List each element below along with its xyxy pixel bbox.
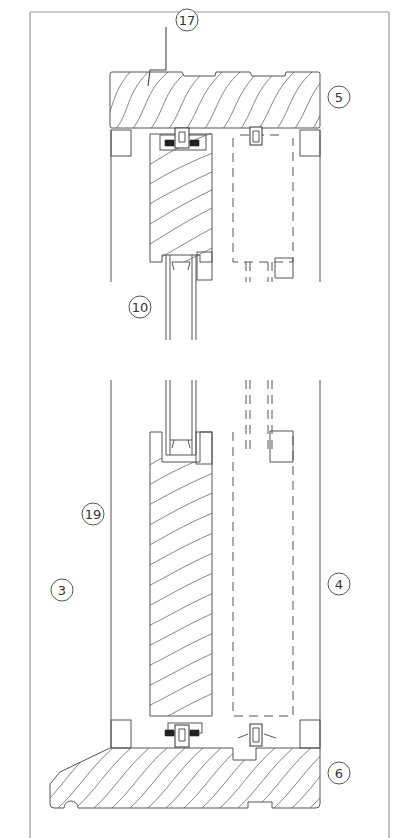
svg-text:4: 4: [335, 577, 343, 592]
svg-text:10: 10: [132, 300, 149, 315]
flashing-17: [148, 27, 166, 86]
head-member-5: [100, 72, 346, 130]
callout-17: 17: [176, 9, 198, 31]
svg-text:19: 19: [85, 507, 102, 522]
sill-member-6: [40, 748, 365, 808]
svg-text:6: 6: [335, 766, 343, 781]
callout-4: 4: [328, 573, 350, 595]
inner-sash-bottom: [140, 432, 220, 747]
callout-10: 10: [129, 296, 151, 318]
callout-6: 6: [328, 762, 350, 784]
frame-jambs-19: [111, 130, 320, 748]
glazing-unit-lower: [166, 380, 196, 455]
svg-text:17: 17: [179, 13, 196, 28]
glazing-unit-10: [166, 255, 196, 340]
callout-5: 5: [328, 86, 350, 108]
callout-3: 3: [51, 579, 73, 601]
callout-19: 19: [82, 503, 104, 525]
outer-sash-dashed: [233, 127, 293, 746]
sheet-border: [30, 12, 389, 838]
svg-text:3: 3: [58, 583, 66, 598]
svg-text:5: 5: [335, 90, 343, 105]
window-section-drawing: 17 5 10 19 3 4 6: [0, 0, 406, 838]
